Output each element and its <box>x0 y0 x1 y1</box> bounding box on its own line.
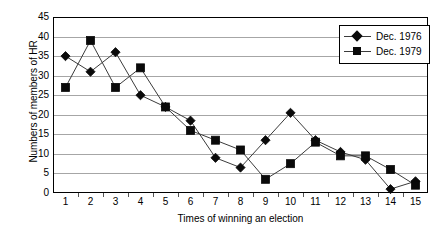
x-axis-tick-label: 8 <box>229 196 253 208</box>
x-axis-tick-label: 3 <box>104 196 128 208</box>
gridline <box>54 154 427 155</box>
x-axis-tick-mark <box>203 193 204 197</box>
x-axis-tick-label: 13 <box>354 196 378 208</box>
gridline <box>54 115 427 116</box>
x-axis-tick-mark <box>228 193 229 197</box>
legend-marker-diamond-icon <box>344 30 371 43</box>
legend-item: Dec. 1979 <box>344 44 425 59</box>
gridline <box>54 95 427 96</box>
x-axis-title: Times of winning an election <box>53 213 428 225</box>
gridline <box>54 76 427 77</box>
x-axis-tick-mark <box>153 193 154 197</box>
y-axis-tick-label: 10 <box>31 149 49 159</box>
legend-marker-square-icon <box>344 45 371 58</box>
y-axis-tick-label: 45 <box>31 12 49 22</box>
x-axis-tick-mark <box>78 193 79 197</box>
x-axis-tick-label: 9 <box>254 196 278 208</box>
x-axis-tick-label: 4 <box>129 196 153 208</box>
line-chart: Numbers of members of HR 051015202530354… <box>0 0 446 240</box>
y-axis-tick-labels: 051015202530354045 <box>28 0 49 240</box>
y-axis-tick-label: 15 <box>31 129 49 139</box>
x-axis-tick-mark <box>328 193 329 197</box>
y-axis-tick-label: 0 <box>31 188 49 198</box>
y-axis-tick-label: 40 <box>31 32 49 42</box>
x-axis-tick-labels: 123456789101112131415 <box>53 196 428 210</box>
y-axis-tick-label: 20 <box>31 110 49 120</box>
x-axis-tick-label: 7 <box>204 196 228 208</box>
y-axis-tick-label: 30 <box>31 71 49 81</box>
gridline <box>54 134 427 135</box>
x-axis-tick-label: 15 <box>404 196 428 208</box>
x-axis-tick-mark <box>128 193 129 197</box>
x-axis-tick-mark <box>103 193 104 197</box>
x-axis-tick-mark <box>353 193 354 197</box>
x-axis-tick-label: 10 <box>279 196 303 208</box>
legend-label: Dec. 1979 <box>371 45 422 58</box>
x-axis-tick-mark <box>378 193 379 197</box>
x-axis-tick-mark <box>178 193 179 197</box>
legend-item: Dec. 1976 <box>344 29 425 44</box>
y-axis-tick-label: 25 <box>31 90 49 100</box>
legend: Dec. 1976 Dec. 1979 <box>339 25 430 64</box>
x-axis-tick-mark <box>278 193 279 197</box>
x-axis-tick-label: 12 <box>329 196 353 208</box>
x-axis-tick-label: 14 <box>379 196 403 208</box>
legend-label: Dec. 1976 <box>371 30 422 43</box>
x-axis-tick-label: 5 <box>154 196 178 208</box>
y-axis-tick-label: 35 <box>31 51 49 61</box>
x-axis-tick-mark <box>403 193 404 197</box>
x-axis-tick-mark <box>253 193 254 197</box>
x-axis-tick-label: 6 <box>179 196 203 208</box>
x-axis-tick-label: 2 <box>79 196 103 208</box>
y-axis-tick-label: 5 <box>31 168 49 178</box>
gridline <box>54 173 427 174</box>
x-axis-tick-label: 11 <box>304 196 328 208</box>
x-axis-tick-mark <box>303 193 304 197</box>
x-axis-tick-label: 1 <box>54 196 78 208</box>
